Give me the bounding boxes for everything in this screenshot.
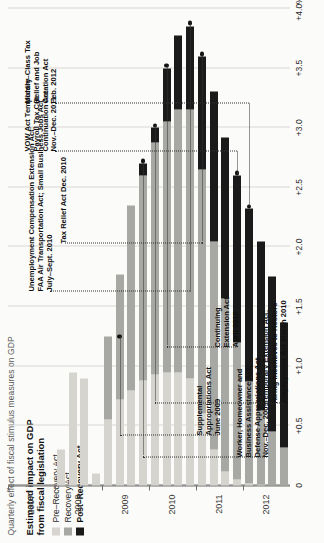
annotation-leader-line-vertical: [167, 345, 236, 347]
time-axis-tick: [149, 485, 150, 490]
time-axis-tick: [8, 485, 9, 490]
value-axis-tick-label: +3.5: [294, 59, 304, 76]
annotation-middle-class-tax: Middle–Class Tax Relief and Job Creation…: [24, 3, 59, 103]
bar-segment: [174, 372, 182, 485]
value-axis-tick-label: +1.0: [294, 357, 304, 374]
value-axis-tick-label: +1.5: [294, 298, 304, 315]
annotation-leader-line-vertical: [120, 433, 218, 435]
bar-segment: [163, 372, 171, 485]
bar-row: [221, 8, 229, 485]
bar-row: [174, 8, 182, 485]
annotation-leader-line-vertical: [50, 289, 190, 291]
chart-figure: Quarterly effect of fiscal stimulus meas…: [0, 0, 324, 543]
bar-segment: [127, 390, 135, 485]
value-axis-tick-label: +3.0: [294, 119, 304, 136]
annotation-tax-relief: Tax Relief Act Dec. 2010: [60, 113, 69, 243]
annotation-leader-line-vertical: [55, 149, 237, 151]
bar-segment: [104, 336, 112, 419]
time-axis-tick: [55, 485, 56, 490]
bar-segment: [233, 479, 241, 485]
annotation-leader-line: [190, 22, 192, 291]
bar-segment: [186, 378, 194, 485]
bar-segment: [210, 91, 218, 240]
annotation-leader-line-vertical: [65, 241, 202, 243]
bar-row: [104, 8, 112, 485]
bar-row: [127, 8, 135, 485]
time-axis-year-label: 2007: [26, 494, 36, 514]
bar-row: [69, 8, 77, 485]
rotated-figure-wrapper: Quarterly effect of fiscal stimulus meas…: [0, 0, 324, 543]
annotation-leader-line: [237, 151, 239, 173]
annotation-leader-line-vertical: [155, 401, 284, 403]
annotation-leader-line-vertical: [143, 455, 267, 457]
annotation-leader-line: [120, 336, 122, 435]
annotation-leader-line: [249, 103, 251, 206]
bar-segment: [280, 447, 288, 485]
time-axis-year-label: 2010: [167, 494, 177, 514]
bar-row: [80, 8, 88, 485]
annotation-leader-line: [155, 125, 157, 403]
bar-segment: [221, 471, 229, 485]
value-axis-tick-label: +2.5: [294, 178, 304, 195]
annotation-temporary-extension-hiring-incentives: Temporary Extension Act; Hiring Incentiv…: [262, 243, 288, 403]
value-axis: 0+0.5+1.0+1.5+2.0+2.5+3.0+3.5+4.0%: [290, 8, 324, 485]
time-axis-year-label: 2009: [120, 494, 130, 514]
time-axis: 200720082009201020112012: [8, 485, 290, 543]
annotation-leader-line: [167, 65, 169, 347]
value-axis-tick-label: +0.5: [294, 417, 304, 434]
bar-segment: [92, 473, 100, 485]
bar-segment: [174, 35, 182, 109]
bar-segment: [57, 449, 65, 485]
value-axis-tick-label: +4.0%: [294, 0, 304, 20]
bar-row: [92, 8, 100, 485]
annotation-leader-line-vertical: [55, 101, 249, 103]
time-axis-year-label: 2011: [214, 494, 224, 513]
annotation-leader-line: [202, 53, 204, 243]
time-axis-year-label: 2008: [73, 494, 83, 514]
bar-segment: [69, 372, 77, 485]
time-axis-year-label: 2012: [261, 494, 271, 514]
time-axis-tick: [102, 485, 103, 490]
bar-segment: [127, 205, 135, 390]
bar-segment: [104, 419, 112, 485]
value-axis-tick-label: 0: [294, 483, 304, 488]
time-axis-tick: [196, 485, 197, 490]
bar-segment: [80, 378, 88, 485]
bar-row: [10, 8, 18, 485]
annotation-continuing-extension: Continuing Extension Act April 2010: [214, 267, 240, 347]
annotation-leader-line: [143, 161, 145, 457]
value-axis-tick-label: +2.0: [294, 238, 304, 255]
time-axis-tick: [243, 485, 244, 490]
